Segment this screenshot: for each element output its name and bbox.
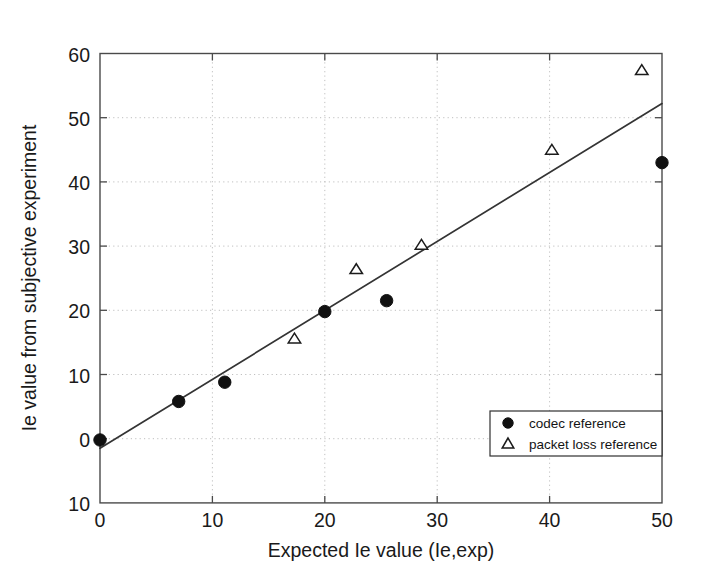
ytick-label-50: 50 [68,108,90,130]
xtick-label-30: 30 [426,509,448,531]
ytick-label-20: 20 [68,300,90,322]
legend: codec reference packet loss reference [490,411,662,456]
ytick-label-neg10: 10 [68,493,90,515]
data-point [319,305,331,317]
scatter-plot-svg: 60 50 40 30 20 10 0 10 0 10 20 30 40 50 … [0,0,709,575]
data-point [219,376,231,388]
xtick-label-0: 0 [95,509,106,531]
chart-figure: 60 50 40 30 20 10 0 10 0 10 20 30 40 50 … [0,0,709,575]
legend-label-codec-reference: codec reference [529,416,626,431]
data-point [94,434,106,446]
data-point [380,294,392,306]
ytick-label-60: 60 [68,44,90,66]
data-point [656,156,668,168]
ytick-label-0: 0 [79,429,90,451]
ytick-label-10: 10 [68,365,90,387]
legend-marker-filled-circle-icon [503,418,513,428]
ytick-label-40: 40 [68,172,90,194]
ytick-label-30: 30 [68,236,90,258]
legend-label-packet-loss-reference: packet loss reference [529,437,657,452]
y-axis-title: Ie value from subjective experiment [18,124,40,431]
figure-background [0,0,709,575]
xtick-label-10: 10 [202,509,224,531]
x-axis-title: Expected Ie value (Ie,exp) [268,539,495,561]
data-point [172,395,184,407]
xtick-label-50: 50 [651,509,673,531]
xtick-label-40: 40 [539,509,561,531]
xtick-label-20: 20 [314,509,336,531]
